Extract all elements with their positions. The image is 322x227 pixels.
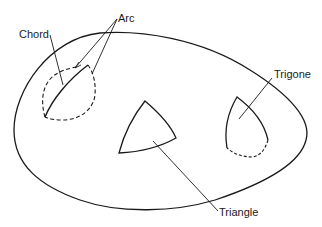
trigone-label: Trigone <box>274 69 311 80</box>
chord-region-dashed-boundary-right <box>45 65 95 120</box>
trigone-leader-line <box>239 78 272 119</box>
triangle-shape <box>119 101 176 153</box>
arc-leader-line-1 <box>75 19 117 68</box>
chord-solid-arc <box>45 65 88 117</box>
arc-label: Arc <box>118 13 135 24</box>
triangle-label: Triangle <box>219 207 258 218</box>
triangle-leader-line <box>153 141 218 211</box>
arc-leader-line-2 <box>92 19 117 74</box>
outer-surface-outline <box>14 32 307 209</box>
chord-label: Chord <box>19 29 49 40</box>
trigone-dashed-base <box>227 140 268 157</box>
trigone-solid-outline <box>226 97 268 148</box>
chord-region-dashed-boundary <box>43 67 76 117</box>
